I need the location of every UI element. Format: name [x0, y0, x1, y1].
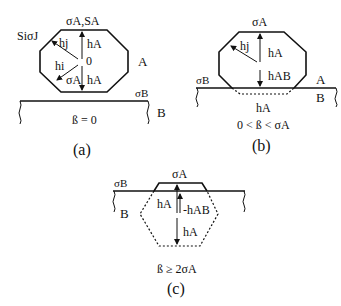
- panel-c: σA σB B hA -hAB hA ß ≥ 2σA (c): [113, 167, 245, 298]
- substrate-edge-left-a: [19, 101, 21, 124]
- label-sigmaB-c: σB: [114, 177, 127, 189]
- label-top-a: σA,SA: [66, 14, 100, 28]
- label-hA-below-b: hA: [256, 101, 271, 115]
- crystal-octagon-a: [40, 30, 128, 92]
- condition-a: ß = 0: [72, 113, 97, 127]
- caption-b: (b): [252, 137, 271, 155]
- label-phaseA-b: A: [316, 72, 326, 87]
- label-sigmaA-inner-a: σA: [66, 73, 81, 87]
- condition-c: ß ≥ 2σA: [157, 262, 197, 276]
- label-minus-hAB-c: -hAB: [183, 203, 210, 217]
- label-phaseB-a: B: [157, 105, 166, 120]
- label-phaseB-b: B: [316, 90, 325, 105]
- crystal-virtual-bottom-b: [232, 88, 294, 94]
- panel-a: σA,SA SiσJ hj hA 0 hi σA hA A σB B ß = 0…: [17, 14, 166, 159]
- condition-b: 0 < ß < σA: [237, 118, 290, 132]
- winterbottom-construction-diagram: σA,SA SiσJ hj hA 0 hi σA hA A σB B ß = 0…: [0, 0, 341, 306]
- label-hi-a: hi: [55, 59, 65, 73]
- label-hA-down-c: hA: [183, 225, 198, 239]
- panel-b: σA hj hA hAB σB A B hA 0 < ß < σA (b): [196, 15, 337, 155]
- label-hA-up-b: hA: [268, 46, 283, 60]
- label-facet-a: SiσJ: [17, 29, 38, 43]
- substrate-edge-right-a: [147, 101, 149, 124]
- label-top-b: σA: [252, 15, 267, 29]
- caption-c: (c): [167, 280, 185, 298]
- substrate-edge-right-b: [335, 88, 337, 107]
- label-hAB-b: hAB: [268, 69, 291, 83]
- substrate-edge-left-b: [196, 88, 198, 107]
- crystal-outline-b: [219, 32, 306, 88]
- label-origin-a: 0: [86, 54, 92, 68]
- label-hA-left-c: hA: [157, 197, 172, 211]
- label-hA-down-a: hA: [87, 73, 102, 87]
- label-sigmaB-a: σB: [135, 87, 148, 99]
- caption-a: (a): [73, 141, 91, 159]
- label-phaseA-a: A: [138, 54, 148, 69]
- label-hj-a: hj: [59, 36, 68, 50]
- substrate-edge-left-c: [113, 191, 115, 212]
- label-top-c: σA: [172, 167, 187, 181]
- label-phaseB-c: B: [120, 206, 129, 221]
- label-hj-b: hj: [240, 39, 249, 53]
- substrate-edge-right-c: [243, 191, 245, 212]
- crystal-virtual-body-c: [140, 191, 218, 246]
- label-sigmaB-b: σB: [196, 74, 209, 86]
- label-hA-up-a: hA: [87, 37, 102, 51]
- crystal-cap-c: [154, 183, 207, 191]
